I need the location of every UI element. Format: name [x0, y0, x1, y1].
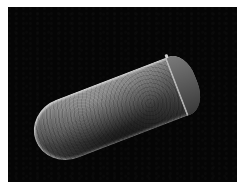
- micrograph-frame: [8, 7, 237, 182]
